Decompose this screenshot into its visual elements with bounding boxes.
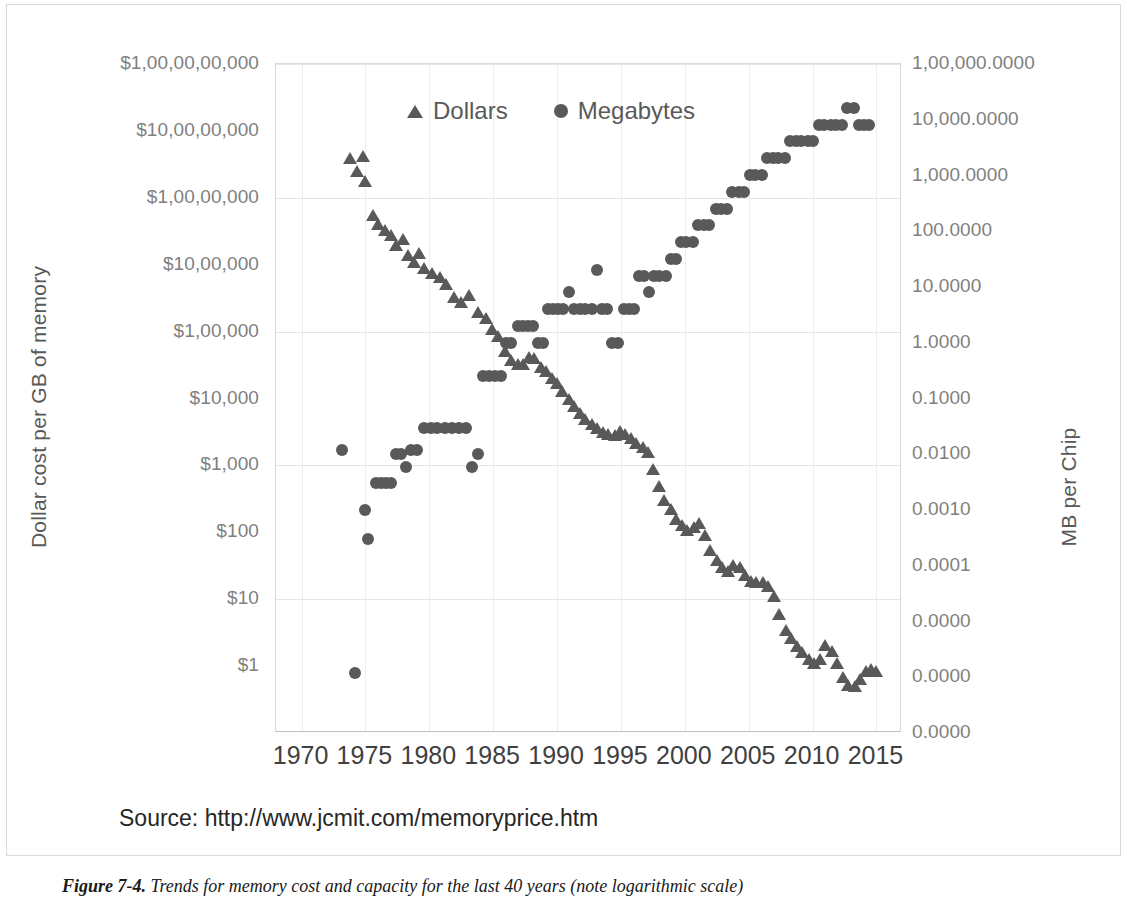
data-point-megabytes bbox=[836, 119, 848, 131]
data-point-dollars bbox=[439, 278, 453, 290]
source-note: Source: http://www.jcmit.com/memoryprice… bbox=[119, 805, 598, 832]
y-axis-left-tick-label: $1,00,000 bbox=[174, 321, 259, 340]
x-axis-ticks: 1970197519801985199019952000200520102015 bbox=[275, 741, 901, 773]
data-point-dollars bbox=[412, 247, 426, 259]
data-point-dollars bbox=[698, 529, 712, 541]
legend-label: Dollars bbox=[433, 97, 508, 125]
data-point-megabytes bbox=[505, 337, 517, 349]
data-point-megabytes bbox=[527, 320, 539, 332]
legend-item-megabytes: Megabytes bbox=[554, 97, 695, 125]
circle-marker-icon bbox=[554, 104, 568, 118]
y-axis-right-tick-label: 1,00,000.0000 bbox=[912, 53, 1035, 72]
y-axis-right-tick-label: 10,000.0000 bbox=[912, 109, 1019, 128]
y-axis-left-tick-label: $1,000 bbox=[200, 454, 259, 473]
x-axis-tick-label: 2015 bbox=[848, 741, 904, 770]
data-point-dollars bbox=[358, 175, 372, 187]
y-axis-right-tick-label: 100.0000 bbox=[912, 220, 992, 239]
y-axis-left-tick-label: $10 bbox=[227, 588, 259, 607]
chart-frame: Dollar cost per GB of memory MB per Chip… bbox=[6, 4, 1121, 856]
data-point-megabytes bbox=[756, 169, 768, 181]
data-markers bbox=[276, 64, 900, 731]
y-axis-left-tick-label: $1,00,00,00,000 bbox=[120, 53, 259, 72]
x-axis-tick-label: 1980 bbox=[400, 741, 456, 770]
data-point-megabytes bbox=[495, 370, 507, 382]
figure-caption-text: Trends for memory cost and capacity for … bbox=[151, 876, 744, 896]
data-point-dollars bbox=[772, 608, 786, 620]
data-point-megabytes bbox=[411, 444, 423, 456]
figure-root: Dollar cost per GB of memory MB per Chip… bbox=[0, 0, 1127, 903]
figure-caption-label: Figure 7-4. bbox=[62, 876, 146, 896]
data-point-megabytes bbox=[660, 270, 672, 282]
data-point-megabytes bbox=[362, 533, 374, 545]
data-point-megabytes bbox=[738, 186, 750, 198]
data-point-dollars bbox=[869, 665, 883, 677]
data-point-megabytes bbox=[721, 203, 733, 215]
data-point-megabytes bbox=[779, 152, 791, 164]
y-axis-right-tick-label: 10.0000 bbox=[912, 276, 981, 295]
y-axis-right-tick-label: 0.0000 bbox=[912, 722, 971, 741]
data-point-dollars bbox=[356, 150, 370, 162]
data-point-dollars bbox=[767, 590, 781, 602]
chart-legend: DollarsMegabytes bbox=[407, 97, 695, 125]
y-axis-right-tick-label: 0.0000 bbox=[912, 666, 971, 685]
y-axis-left-tick-label: $10,000 bbox=[190, 388, 259, 407]
x-axis-tick-label: 1985 bbox=[464, 741, 520, 770]
data-point-megabytes bbox=[863, 119, 875, 131]
y-axis-right-tick-label: 0.0100 bbox=[912, 443, 971, 462]
y-axis-left-tick-label: $10,00,00,000 bbox=[136, 120, 259, 139]
x-axis-tick-label: 2010 bbox=[784, 741, 840, 770]
data-point-megabytes bbox=[807, 135, 819, 147]
data-point-megabytes bbox=[385, 477, 397, 489]
y-axis-left-tick-label: $1,00,00,000 bbox=[147, 187, 259, 206]
y-axis-left-tick-label: $1 bbox=[238, 655, 259, 674]
data-point-megabytes bbox=[643, 286, 655, 298]
data-point-megabytes bbox=[563, 286, 575, 298]
data-point-dollars bbox=[641, 446, 655, 458]
data-point-megabytes bbox=[628, 303, 640, 315]
x-axis-tick-label: 2000 bbox=[656, 741, 712, 770]
y-axis-left-ticks: $1,00,00,00,000$10,00,00,000$1,00,00,000… bbox=[89, 5, 259, 685]
data-point-megabytes bbox=[848, 102, 860, 114]
y-axis-left-tick-label: $100 bbox=[216, 521, 259, 540]
data-point-megabytes bbox=[400, 461, 412, 473]
data-point-megabytes bbox=[336, 444, 348, 456]
data-point-dollars bbox=[652, 480, 666, 492]
plot-area bbox=[275, 63, 901, 732]
data-point-megabytes bbox=[670, 253, 682, 265]
data-point-dollars bbox=[830, 657, 844, 669]
data-point-dollars bbox=[825, 645, 839, 657]
data-point-megabytes bbox=[537, 337, 549, 349]
data-point-megabytes bbox=[472, 448, 484, 460]
data-point-megabytes bbox=[460, 422, 472, 434]
x-axis-tick-label: 1995 bbox=[592, 741, 648, 770]
data-point-megabytes bbox=[466, 461, 478, 473]
legend-label: Megabytes bbox=[578, 97, 695, 125]
data-point-megabytes bbox=[612, 337, 624, 349]
data-point-dollars bbox=[646, 463, 660, 475]
y-axis-left-tick-label: $10,00,000 bbox=[163, 254, 259, 273]
y-axis-right-tick-label: 0.0001 bbox=[912, 555, 971, 574]
y-axis-right-tick-label: 1.0000 bbox=[912, 332, 971, 351]
y-axis-right-tick-label: 1,000.0000 bbox=[912, 165, 1008, 184]
y-axis-right-tick-label: 0.0010 bbox=[912, 499, 971, 518]
y-axis-right-tick-label: 0.1000 bbox=[912, 388, 971, 407]
triangle-marker-icon bbox=[407, 105, 423, 118]
data-point-megabytes bbox=[601, 303, 613, 315]
data-point-megabytes bbox=[359, 504, 371, 516]
data-point-megabytes bbox=[703, 219, 715, 231]
data-point-megabytes bbox=[687, 236, 699, 248]
x-axis-tick-label: 1990 bbox=[528, 741, 584, 770]
y-axis-right-tick-label: 0.0000 bbox=[912, 611, 971, 630]
data-point-megabytes bbox=[349, 667, 361, 679]
data-point-dollars bbox=[462, 289, 476, 301]
x-axis-tick-label: 2005 bbox=[720, 741, 776, 770]
data-point-dollars bbox=[396, 233, 410, 245]
x-axis-tick-label: 1970 bbox=[273, 741, 329, 770]
figure-caption: Figure 7-4. Trends for memory cost and c… bbox=[62, 876, 743, 897]
data-point-megabytes bbox=[591, 264, 603, 276]
data-point-dollars bbox=[692, 517, 706, 529]
x-axis-tick-label: 1975 bbox=[337, 741, 393, 770]
legend-item-dollars: Dollars bbox=[407, 97, 508, 125]
y-axis-left-title: Dollar cost per GB of memory bbox=[27, 257, 51, 557]
y-axis-right-ticks: 1,00,000.000010,000.00001,000.0000100.00… bbox=[912, 5, 1082, 685]
